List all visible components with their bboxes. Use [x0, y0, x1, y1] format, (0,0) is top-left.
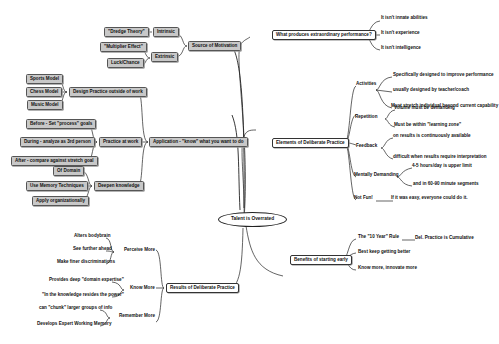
leaf-minute-segments[interactable]: and in 60-90 minute segments: [412, 181, 480, 188]
leaf-knowledge-power[interactable]: "In the knowledge resides the power": [41, 292, 125, 299]
leaf-luck-chance[interactable]: Luck/Chance: [107, 58, 144, 68]
leaf-domain-expertise[interactable]: Provides deep "domain expertise": [48, 277, 125, 284]
leaf-sports-model[interactable]: Sports Model: [26, 74, 63, 84]
leaf-if-easy[interactable]: If it was easy, everyone could do it.: [390, 195, 469, 202]
subtopic-perceive-more[interactable]: Perceive More: [123, 247, 156, 254]
topic-what-produces-performance[interactable]: What produces extraordinary performance?: [272, 30, 376, 40]
leaf-finer-discriminations[interactable]: Make finer discriminations: [56, 259, 116, 266]
leaf-dredge-theory[interactable]: "Dredge Theory": [104, 27, 149, 37]
leaf-know-more-innovate[interactable]: Know more, innovate more: [357, 265, 418, 272]
subtopic-design-practice[interactable]: Design Practice outside of work: [69, 87, 147, 97]
subtopic-feedback[interactable]: Feedback: [355, 143, 378, 150]
leaf-volume-demanding[interactable]: Volume must be demanding: [393, 105, 456, 112]
leaf-during[interactable]: During - analyze as 3rd person: [20, 137, 95, 147]
leaf-music-model[interactable]: Music Model: [27, 100, 63, 110]
leaf-memory-techniques[interactable]: Use Memory Techniques: [26, 181, 88, 191]
topic-elements-deliberate-practice[interactable]: Elements of Deliberate Practice: [272, 138, 349, 148]
leaf-chunk-info[interactable]: can "chunk" larger groups of info: [38, 305, 113, 312]
leaf-results-available[interactable]: on results is continuously available: [392, 133, 472, 140]
leaf-learning-zone[interactable]: Must be within "learning zone": [393, 122, 462, 129]
subtopic-not-fun[interactable]: Not Fun!: [353, 195, 374, 202]
leaf-multiplier-effect[interactable]: "Multiplier Effect": [100, 42, 147, 52]
leaf-of-domain[interactable]: Of Domain: [53, 166, 84, 176]
subtopic-mentally-demanding[interactable]: Mentally Demanding: [353, 172, 400, 179]
subtopic-ten-year-rule[interactable]: The "10 Year" Rule: [357, 234, 400, 241]
leaf-not-innate[interactable]: It isn't innate abilities: [380, 15, 429, 22]
topic-results-deliberate-practice[interactable]: Results of Deliberate Practice: [166, 283, 239, 293]
subtopic-remember-more[interactable]: Remember More: [118, 313, 156, 320]
leaf-cumulative[interactable]: Del. Practice is Cumulative: [414, 235, 475, 242]
leaf-see-further[interactable]: See further ahead: [72, 246, 113, 253]
leaf-best-keep-better[interactable]: Best keep getting better: [357, 249, 411, 256]
subtopic-repetition[interactable]: Repetition: [354, 114, 378, 121]
leaf-chess-model[interactable]: Chess Model: [26, 87, 62, 97]
leaf-not-intelligence[interactable]: It isn't intelligence: [380, 45, 422, 52]
leaf-before[interactable]: Before - Set "process" goals: [26, 119, 96, 129]
leaf-specifically-designed[interactable]: Specifically designed to improve perform…: [392, 72, 495, 79]
leaf-working-memory[interactable]: Develops Expert Working Memory: [36, 321, 112, 328]
subtopic-activities[interactable]: Activities: [355, 81, 377, 88]
leaf-alters-bodybrain[interactable]: Alters bodybrain: [73, 233, 112, 240]
topic-application[interactable]: Application - "know" what you want to do: [149, 137, 248, 147]
leaf-hours-per-day[interactable]: 4-5 hours/day is upper limit: [411, 163, 473, 170]
topic-source-of-motivation[interactable]: Source of Motivation: [188, 41, 241, 51]
leaf-not-experience[interactable]: It isn't experience: [380, 30, 421, 37]
leaf-apply-organizationally[interactable]: Apply organizationally: [32, 196, 89, 206]
central-topic[interactable]: Talent is Overrated: [218, 212, 287, 227]
topic-benefits-starting-early[interactable]: Benefits of starting early: [290, 255, 352, 265]
leaf-interpretation[interactable]: difficult when results require interpret…: [392, 154, 488, 161]
subtopic-intrinsic[interactable]: Intrinsic: [153, 27, 179, 37]
subtopic-extrinsic[interactable]: Extrinsic: [151, 52, 178, 62]
leaf-teacher-coach[interactable]: usually designed by teacher/coach: [392, 87, 470, 94]
subtopic-know-more[interactable]: Know More: [129, 285, 156, 292]
subtopic-deepen-knowledge[interactable]: Deepen knowledge: [94, 181, 144, 191]
subtopic-practice-at-work[interactable]: Practice at work: [99, 137, 142, 147]
leaf-after[interactable]: After - compare against stretch goal: [11, 156, 98, 166]
